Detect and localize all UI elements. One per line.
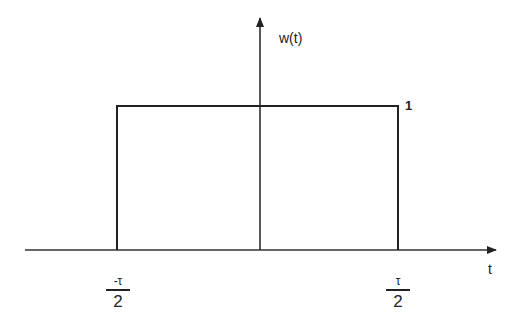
fraction-bar <box>386 289 410 291</box>
left-edge-label: -τ 2 <box>106 274 130 311</box>
window-function-diagram <box>0 0 525 327</box>
rectangular-pulse <box>117 106 398 250</box>
left-edge-denominator: 2 <box>106 293 130 311</box>
x-axis-label: t <box>488 261 492 277</box>
y-axis-label: w(t) <box>279 30 302 46</box>
left-edge-numerator: -τ <box>106 274 130 288</box>
amplitude-label: 1 <box>405 98 412 113</box>
right-edge-label: τ 2 <box>386 274 410 311</box>
fraction-bar <box>106 289 130 291</box>
right-edge-denominator: 2 <box>386 293 410 311</box>
right-edge-numerator: τ <box>386 274 410 288</box>
